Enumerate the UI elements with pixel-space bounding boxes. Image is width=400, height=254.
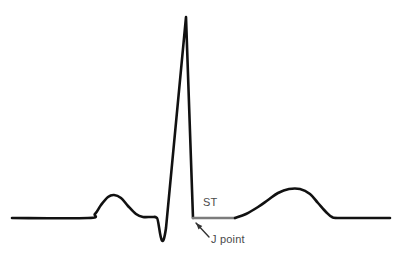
j-point-label: J point [211, 233, 245, 245]
figure-background [0, 0, 400, 254]
ecg-waveform-diagram: ST J point [0, 0, 400, 254]
ecg-figure: ST J point [0, 0, 400, 254]
st-segment-label: ST [203, 196, 218, 208]
